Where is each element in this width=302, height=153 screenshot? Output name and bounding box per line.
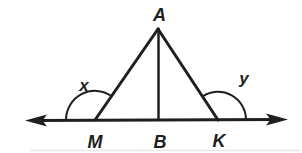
label-angle-y: y bbox=[238, 69, 250, 88]
label-point-M: M bbox=[88, 132, 104, 152]
side-KA bbox=[158, 29, 218, 120]
label-point-B: B bbox=[154, 132, 167, 152]
triangle-exterior-angles-diagram: A M B K x y bbox=[0, 0, 302, 153]
label-point-K: K bbox=[213, 131, 228, 151]
side-MA bbox=[95, 29, 158, 120]
label-angle-x: x bbox=[78, 76, 90, 95]
base-line bbox=[36, 120, 278, 121]
label-point-A: A bbox=[152, 5, 166, 25]
geometry-figure: A M B K x y bbox=[0, 0, 302, 153]
